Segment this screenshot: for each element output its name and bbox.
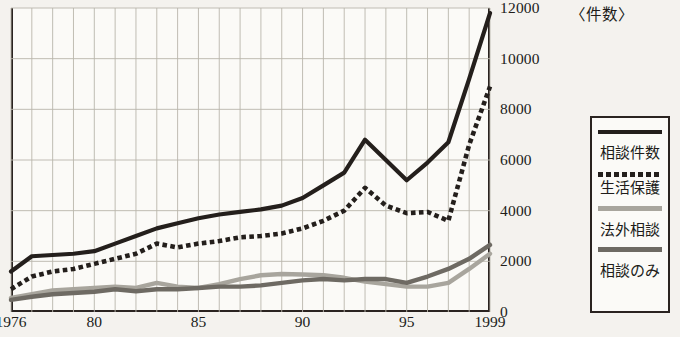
x-axis-tick: 1976 (0, 314, 27, 330)
y-axis-tick: 8000 (500, 101, 532, 117)
legend-swatch-icon (598, 206, 662, 220)
legend-item[interactable]: 相談件数 (597, 130, 663, 165)
legend-swatch-icon (598, 171, 662, 177)
legend-item-label: 生活保護 (597, 179, 663, 200)
legend-item-label: 法外相談 (597, 221, 663, 242)
chart-legend: 相談件数生活保護法外相談相談のみ (590, 116, 670, 313)
line-chart: 〈件数〉 020004000600080001000012000 1976808… (0, 0, 680, 337)
legend-item[interactable]: 生活保護 (597, 171, 663, 200)
legend-item[interactable]: 法外相談 (597, 206, 663, 242)
y-axis-tick: 10000 (500, 51, 540, 67)
x-axis-tick: 1999 (475, 314, 506, 330)
x-axis-tick: 85 (191, 314, 207, 330)
series-line-生活保護 (11, 87, 490, 290)
legend-swatch-icon (598, 130, 662, 143)
y-axis-tick: 6000 (500, 152, 532, 168)
series-line-相談件数 (11, 13, 490, 271)
chart-canvas (0, 0, 680, 337)
y-axis-tick: 4000 (500, 203, 532, 219)
legend-item-label: 相談のみ (597, 262, 663, 283)
y-axis-tick: 12000 (500, 0, 540, 16)
x-axis-tick: 90 (295, 314, 311, 330)
y-axis-tick: 2000 (500, 253, 532, 269)
legend-item[interactable]: 相談のみ (597, 247, 663, 283)
legend-item-label: 相談件数 (597, 144, 663, 165)
x-axis-tick: 95 (399, 314, 415, 330)
legend-swatch-icon (598, 247, 662, 261)
y-axis-unit-label: 〈件数〉 (570, 2, 634, 24)
x-axis-tick: 80 (87, 314, 103, 330)
